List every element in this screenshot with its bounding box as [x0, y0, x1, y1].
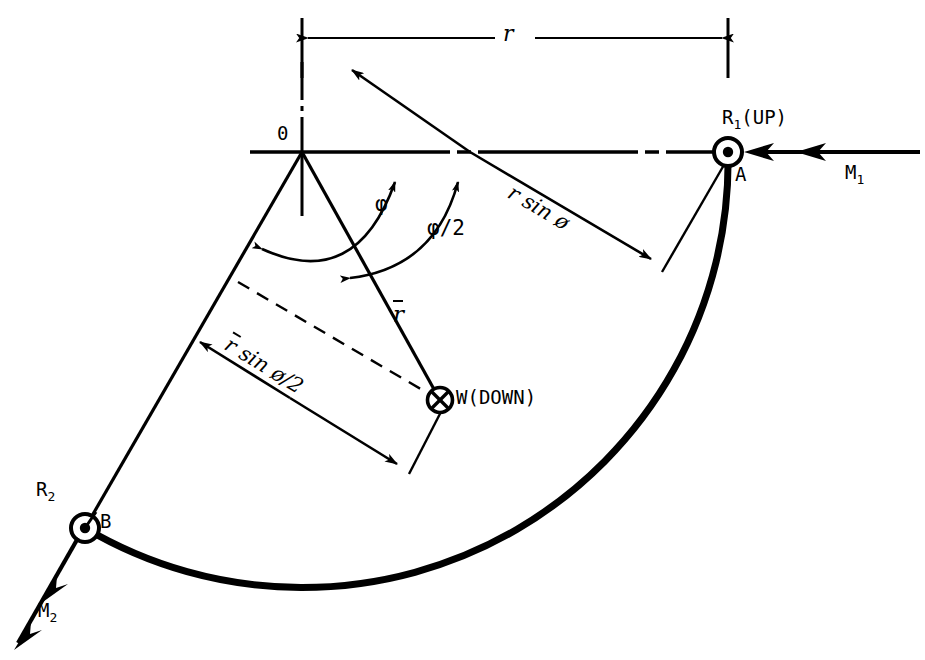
rbar-label: r — [393, 303, 404, 326]
pin-support-a — [714, 138, 742, 166]
radius-label: r — [503, 23, 514, 45]
rbar-line-ow — [302, 152, 440, 400]
moment-arrow-m2 — [14, 538, 78, 650]
dimension-r-sin-phi — [352, 70, 728, 272]
point-a-label: A — [735, 165, 746, 184]
point-b-label: B — [100, 512, 111, 531]
moment-1-symbol: M — [845, 161, 856, 183]
moment-1-label: M1 — [845, 163, 864, 186]
moment-1-subscript: 1 — [856, 172, 864, 187]
moment-2-symbol: M — [38, 599, 49, 621]
origin-label: 0 — [277, 124, 288, 143]
weight-marker — [428, 388, 453, 413]
weight-label: W(DOWN) — [456, 388, 536, 407]
rbar-symbol: r — [393, 303, 404, 326]
dimension-r — [302, 18, 728, 78]
diagram-svg — [0, 0, 925, 660]
reaction-2-subscript: 2 — [47, 489, 55, 504]
radius-line-ob — [85, 152, 302, 528]
angle-phi-half-label: φ/2 — [427, 218, 465, 239]
reaction-2-label: R2 — [36, 480, 55, 503]
moment-2-subscript: 2 — [49, 610, 57, 625]
moment-arrow-m1 — [744, 143, 920, 161]
beam-arc — [85, 152, 728, 587]
reaction-1-direction: (UP) — [741, 106, 787, 128]
angle-phi-label: φ — [375, 194, 388, 215]
figure-canvas: 0 r A B R1(UP) R2 M1 M2 φ φ/2 r sin ø r … — [0, 0, 925, 660]
reaction-1-label: R1(UP) — [722, 108, 787, 131]
moment-2-label: M2 — [38, 601, 57, 624]
reaction-1-symbol: R — [722, 106, 733, 128]
reaction-2-symbol: R — [36, 478, 47, 500]
